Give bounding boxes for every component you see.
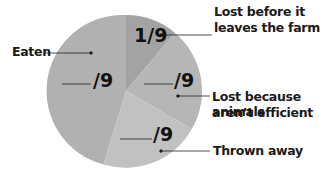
label-thrown: Thrown away [213,143,303,158]
label-eaten: Eaten [12,44,51,59]
fraction-eaten: /9 [93,70,113,90]
fraction-thrown: /9 [153,124,173,144]
label-farm-1: Lost before it [214,4,305,19]
label-farm-2: leaves the farm [214,20,320,35]
label-animals-2: aren’t efficient [212,105,313,120]
fraction-farm: 1/9 [134,25,167,45]
fraction-animals: /9 [174,70,194,90]
